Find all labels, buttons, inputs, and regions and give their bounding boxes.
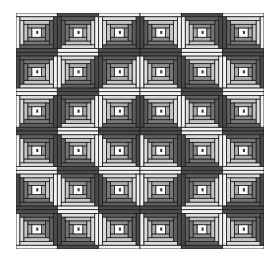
- quilt-block: [181, 13, 222, 52]
- quilt-block: [140, 210, 181, 249]
- quilt-block: [140, 131, 181, 170]
- quilt-block: [16, 52, 57, 91]
- quilt-block: [223, 131, 264, 170]
- quilt-block: [181, 92, 222, 131]
- quilt-block: [140, 13, 181, 52]
- quilt-block: [99, 52, 140, 91]
- quilt-svg: [16, 13, 264, 249]
- quilt-block: [16, 92, 57, 131]
- quilt-block: [16, 131, 57, 170]
- quilt-block: [57, 170, 98, 209]
- quilt-block: [57, 92, 98, 131]
- quilt-block: [181, 131, 222, 170]
- quilt-block: [223, 13, 264, 52]
- quilt-block: [181, 170, 222, 209]
- log-cabin-quilt: [16, 13, 264, 249]
- quilt-block: [99, 13, 140, 52]
- quilt-block: [57, 131, 98, 170]
- quilt-block: [223, 170, 264, 209]
- quilt-block: [57, 52, 98, 91]
- quilt-block: [223, 52, 264, 91]
- quilt-block: [99, 170, 140, 209]
- quilt-block: [57, 210, 98, 249]
- quilt-block: [140, 170, 181, 209]
- quilt-block: [223, 210, 264, 249]
- quilt-block: [99, 131, 140, 170]
- quilt-block: [99, 210, 140, 249]
- quilt-block: [16, 170, 57, 209]
- quilt-block: [181, 210, 222, 249]
- quilt-block: [16, 13, 57, 52]
- quilt-block: [99, 92, 140, 131]
- quilt-block: [181, 52, 222, 91]
- quilt-block: [223, 92, 264, 131]
- quilt-block: [140, 92, 181, 131]
- quilt-block: [140, 52, 181, 91]
- quilt-block: [16, 210, 57, 249]
- quilt-block: [57, 13, 98, 52]
